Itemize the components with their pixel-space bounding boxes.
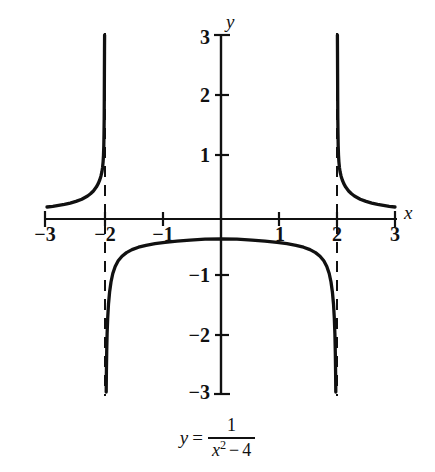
function-plot [0, 0, 435, 435]
fraction-numerator: 1 [219, 415, 244, 437]
y-tick-label--3: −3 [172, 382, 210, 402]
y-tick-label--2: −2 [172, 325, 210, 345]
equation-lhs: y [180, 427, 188, 449]
fraction-denominator: x2−4 [208, 439, 255, 461]
denominator-exponent: 2 [220, 438, 226, 452]
x-tick-label--1: −1 [152, 224, 173, 244]
denominator-operator: − [229, 440, 239, 460]
x-tick-label-3: 3 [390, 224, 400, 244]
curve-left-branch [47, 35, 105, 207]
y-axis-label: y [226, 12, 234, 31]
fraction: 1 x2−4 [208, 415, 255, 461]
equation: y = 1 x2−4 [180, 415, 255, 461]
x-tick-label-1: 1 [275, 224, 285, 244]
x-axis-label: x [404, 203, 412, 222]
x-tick-label--3: −3 [34, 224, 55, 244]
x-tick-label-2: 2 [332, 224, 342, 244]
y-tick-label--1: −1 [172, 265, 210, 285]
x-tick-label--2: −2 [94, 224, 115, 244]
denominator-constant: 4 [242, 440, 251, 460]
y-tick-label-2: 2 [180, 85, 210, 105]
y-tick-label-3: 3 [180, 27, 210, 47]
denominator-variable: x [212, 440, 220, 460]
figure-container: −3 −2 −1 1 2 3 3 2 1 −1 −2 −3 y x y = 1 … [0, 0, 435, 472]
y-tick-label-1: 1 [180, 145, 210, 165]
curve-right-branch [337, 35, 395, 207]
equals-sign: = [192, 427, 203, 449]
equation-caption: y = 1 x2−4 [0, 415, 435, 461]
